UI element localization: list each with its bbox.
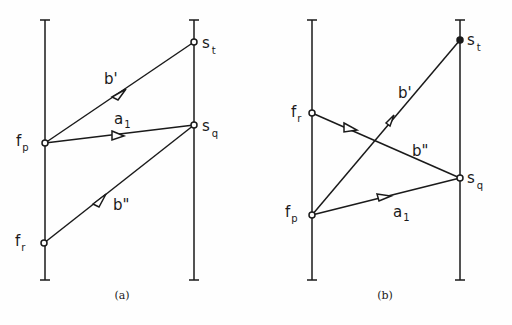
edge-b-double-a [44,125,194,243]
node-s-q-b [457,175,463,181]
node-f-p-b [309,212,315,218]
label-s-q-b: sq [467,169,483,191]
labels-b: st sq fr fp b' b" a1 (b) [285,31,483,302]
label-b-prime-b: b' [398,84,412,102]
label-s-t-a: st [202,34,216,56]
arrow-icon [377,194,391,201]
caption-b: (b) [377,289,393,302]
label-s-t-b: st [467,31,481,53]
message-sequence-diagrams: st sq fp fr b' a1 b" (a) st sq fr fp b' … [0,0,512,325]
caption-a: (a) [114,289,129,302]
edge-b-prime-b [312,40,460,215]
label-f-r-b: fr [291,103,302,124]
arrow-icon [112,89,126,100]
node-s-q-a [191,122,197,128]
arrow-icon [93,194,106,207]
label-a1-b: a1 [393,203,410,223]
arrow-icon [112,131,124,140]
label-s-q-a: sq [202,117,218,139]
label-f-p-b: fp [285,203,298,224]
label-b-double-b: b" [412,142,428,160]
arrow-icon [344,123,357,132]
label-a1-a: a1 [114,110,131,130]
node-s-t-a [191,39,197,45]
node-f-p-a [42,140,48,146]
node-f-r-a [41,240,47,246]
label-b-prime-a: b' [104,70,118,88]
diagram-a [40,20,199,280]
label-b-double-a: b" [113,196,129,214]
node-s-t-b [457,37,463,43]
diagram-b [307,20,465,280]
node-f-r-b [309,110,315,116]
label-f-p-a: fp [16,132,29,153]
label-f-r-a: fr [15,232,26,253]
